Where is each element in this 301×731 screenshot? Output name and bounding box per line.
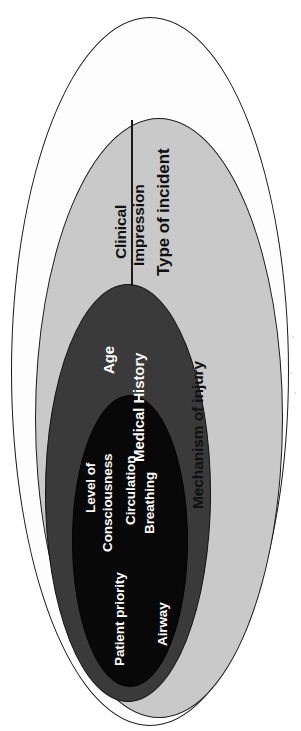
scan-speckle	[292, 336, 294, 338]
scan-speckle	[290, 372, 292, 374]
diagram-canvas: Type of incident Clinical Impression Mec…	[0, 0, 301, 731]
label-age: Age	[101, 346, 116, 374]
label-airway: Airway	[156, 602, 170, 646]
label-type-of-incident: Type of incident	[155, 149, 172, 276]
label-circulation: Circulation	[124, 456, 138, 525]
label-breathing: Breathing	[143, 472, 157, 534]
scan-speckle	[294, 392, 296, 394]
label-patient-priority: Patient priority	[113, 572, 127, 666]
label-clinical-impression-line1: Clinical	[113, 205, 129, 259]
label-mechanism-of-injury: Mechanism of injury	[190, 361, 206, 509]
label-level-of-consciousness-line1: Level of	[84, 463, 98, 513]
label-level-of-consciousness-line2: Consciousness	[101, 454, 115, 552]
label-clinical-impression-line2: Impression	[131, 184, 147, 266]
label-medical-history: Medical History	[131, 353, 146, 462]
